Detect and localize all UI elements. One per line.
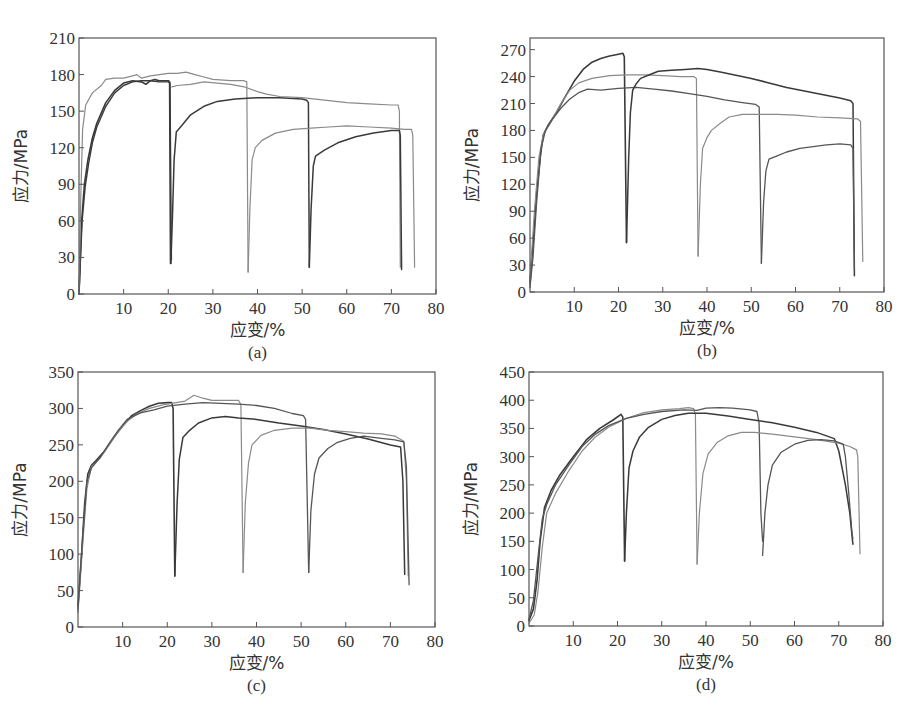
x-tick-label: 20 (159, 632, 176, 651)
x-tick-label: 80 (875, 631, 892, 650)
curve-dark-4 (761, 144, 854, 270)
curve-dark-3 (625, 413, 853, 561)
x-tick-label: 50 (743, 297, 760, 316)
x-tick-label: 70 (831, 297, 848, 316)
curve-dark-2 (79, 81, 171, 294)
y-tick-label: 350 (49, 363, 75, 382)
y-tick-label: 60 (58, 212, 75, 231)
y-tick-label: 90 (509, 202, 526, 221)
x-tick-label: 40 (249, 299, 266, 318)
y-tick-label: 30 (509, 256, 526, 275)
x-tick-label: 60 (338, 299, 355, 318)
figure-canvas: 10203040506070800306090120150180210应变/%应… (0, 0, 914, 720)
y-tick-label: 200 (49, 472, 75, 491)
curve-dark-3 (175, 416, 405, 576)
curve-dark-2 (530, 87, 761, 287)
x-tick-label: 70 (382, 632, 399, 651)
x-tick-label: 20 (609, 631, 626, 650)
curve-dark-1 (78, 403, 175, 605)
y-tick-label: 300 (500, 448, 526, 467)
y-tick-label: 210 (50, 29, 76, 48)
x-tick-label: 70 (830, 631, 847, 650)
y-axis-label: 应力/MPa (10, 462, 30, 536)
x-tick-label: 10 (114, 632, 131, 651)
curve-dark-4 (309, 131, 401, 270)
plot-frame (529, 372, 883, 626)
x-tick-label: 30 (204, 299, 221, 318)
x-tick-label: 80 (428, 299, 445, 318)
y-tick-label: 270 (501, 41, 527, 60)
curve-dark-1 (530, 53, 627, 283)
x-tick-label: 40 (248, 632, 265, 651)
y-tick-label: 120 (50, 139, 76, 158)
panel-label: (d) (696, 675, 716, 694)
curve-light-2 (697, 432, 860, 564)
y-tick-label: 400 (500, 391, 526, 410)
y-tick-label: 100 (49, 545, 75, 564)
y-tick-label: 180 (501, 121, 527, 140)
plot-frame (78, 372, 435, 627)
y-tick-label: 240 (501, 68, 527, 87)
y-tick-label: 180 (50, 66, 76, 85)
x-tick-label: 70 (383, 299, 400, 318)
curve-light-1 (530, 75, 698, 279)
y-tick-label: 0 (66, 618, 75, 637)
curve-dark-2 (78, 403, 309, 609)
x-tick-label: 80 (427, 632, 444, 651)
subplot-b: 1020304050607080030609012015018021024027… (462, 38, 893, 360)
y-tick-label: 150 (50, 102, 76, 121)
x-tick-label: 60 (787, 297, 804, 316)
panel-label: (b) (697, 341, 717, 360)
y-axis-label: 应力/MPa (462, 128, 482, 202)
curve-dark-2 (529, 408, 763, 620)
curve-dark-3 (627, 69, 855, 276)
y-tick-label: 0 (518, 283, 527, 302)
x-tick-label: 10 (115, 299, 132, 318)
y-tick-label: 30 (58, 248, 75, 267)
x-tick-label: 50 (293, 632, 310, 651)
curve-dark-3 (171, 98, 309, 268)
curve-light-3 (248, 126, 415, 272)
y-tick-label: 350 (500, 419, 526, 438)
panel-label: (c) (247, 676, 266, 695)
x-tick-label: 10 (566, 297, 583, 316)
y-axis-label: 应力/MPa (461, 462, 481, 536)
curve-light-1 (78, 395, 243, 612)
subplot-a: 10203040506070800306090120150180210应变/%应… (11, 29, 445, 362)
y-tick-label: 150 (500, 532, 526, 551)
x-tick-label: 30 (654, 297, 671, 316)
x-axis-label: 应变/% (230, 320, 286, 340)
y-tick-label: 150 (501, 148, 527, 167)
subplot-c: 1020304050607080050100150200250300350应变/… (10, 363, 444, 695)
y-tick-label: 50 (57, 582, 74, 601)
curve-dark-4 (309, 436, 409, 585)
y-axis-label: 应力/MPa (11, 129, 31, 203)
y-tick-label: 100 (500, 561, 526, 580)
x-tick-label: 80 (876, 297, 893, 316)
y-tick-label: 90 (58, 175, 75, 194)
panel-label: (a) (248, 343, 267, 362)
x-tick-label: 50 (742, 631, 759, 650)
y-tick-label: 250 (49, 436, 75, 455)
y-tick-label: 210 (501, 95, 527, 114)
x-tick-label: 40 (699, 297, 716, 316)
y-tick-label: 200 (500, 504, 526, 523)
x-tick-label: 20 (610, 297, 627, 316)
x-axis-label: 应变/% (229, 653, 285, 673)
curve-light-2 (172, 82, 400, 267)
x-tick-label: 50 (294, 299, 311, 318)
curve-light-1 (529, 408, 697, 624)
y-tick-label: 0 (67, 285, 76, 304)
x-axis-label: 应变/% (679, 318, 735, 338)
curve-dark-1 (79, 79, 171, 294)
x-tick-label: 20 (160, 299, 177, 318)
y-tick-label: 150 (49, 509, 75, 528)
x-tick-label: 30 (203, 632, 220, 651)
x-axis-label: 应变/% (678, 652, 734, 672)
x-tick-label: 60 (337, 632, 354, 651)
curve-light-2 (698, 114, 863, 261)
y-tick-label: 0 (517, 617, 526, 636)
x-tick-label: 10 (565, 631, 582, 650)
y-tick-label: 300 (49, 399, 75, 418)
y-tick-label: 50 (508, 589, 525, 608)
